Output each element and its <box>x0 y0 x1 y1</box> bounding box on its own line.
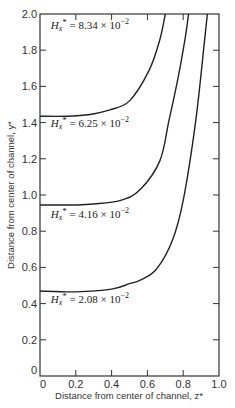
curve-label: Hx* = 4.16 × 10−2 <box>50 206 129 222</box>
x-tick-label: 0.8 <box>176 378 191 390</box>
y-tick-label: 1.6 <box>22 80 37 92</box>
curve-label: Hx* = 6.25 × 10−2 <box>50 115 129 131</box>
data-curves <box>40 14 207 292</box>
chart: 00.20.40.60.81.000.20.40.60.81.01.21.41.… <box>0 0 235 408</box>
y-tick-label: 1.0 <box>22 189 37 201</box>
y-tick-label: 1.2 <box>22 153 37 165</box>
x-tick-label: 0.2 <box>68 378 83 390</box>
plot-frame <box>40 14 219 376</box>
curve-annotations: Hx* = 8.34 × 10−2Hx* = 6.25 × 10−2Hx* = … <box>50 17 129 306</box>
y-tick-label: 0.4 <box>22 298 37 310</box>
curve-label: Hx* = 8.34 × 10−2 <box>50 17 129 33</box>
x-tick-label: 0.6 <box>140 378 155 390</box>
y-tick-label: 2.0 <box>22 8 37 20</box>
y-tick-label: 0.8 <box>22 225 37 237</box>
y-tick-label: 0.6 <box>22 261 37 273</box>
x-tick-label: 0 <box>40 378 46 390</box>
y-tick-label: 1.4 <box>22 117 37 129</box>
x-tick-label: 0.4 <box>104 378 119 390</box>
plot-axes <box>40 14 219 376</box>
y-tick-label: 0.2 <box>22 334 37 346</box>
x-axis-title: Distance from center of channel, z* <box>55 390 203 401</box>
curve-2 <box>40 14 189 205</box>
curve-label: Hx* = 2.08 × 10−2 <box>50 291 129 307</box>
x-tick-label: 1.0 <box>211 378 226 390</box>
y-tick-label: 0 <box>31 364 37 376</box>
y-tick-label: 1.8 <box>22 44 37 56</box>
y-axis-title: Distance from center of channel, y* <box>5 121 16 269</box>
